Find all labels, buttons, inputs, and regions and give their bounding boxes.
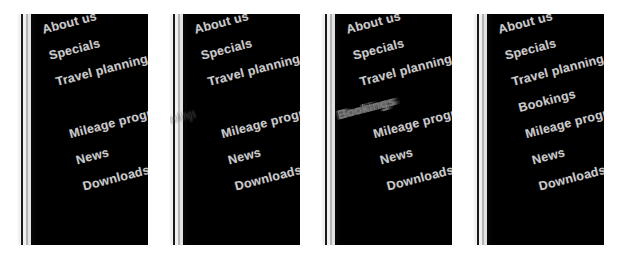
navigation-menu: About usSpecialsTravel planningBookingsM… <box>35 14 148 245</box>
menu-frame-1: About usSpecialsTravel planningBookingsM… <box>18 14 148 245</box>
panel-edge-stripes <box>322 14 339 245</box>
navigation-menu-list: About usSpecialsTravel planningBookingsM… <box>41 14 148 207</box>
panel-edge-stripes <box>18 14 35 245</box>
panel-edge-stripes <box>474 14 491 245</box>
animation-sequence: About usSpecialsTravel planningBookingsM… <box>0 0 618 260</box>
menu-frame-2: About usSpecialsTravel planningBookingsM… <box>170 14 300 245</box>
menu-frame-4: About usSpecialsTravel planningBookingsM… <box>474 14 604 245</box>
menu-item-mileage-programs[interactable]: Mileage programs <box>220 101 300 141</box>
navigation-menu-list: About usSpecialsTravel planningBookingsM… <box>193 14 300 207</box>
panel-edge-stripes <box>170 14 187 245</box>
navigation-menu-list: About usSpecialsTravel planningBookingsM… <box>345 14 452 207</box>
menu-item-mileage-programs[interactable]: Mileage programs <box>68 101 148 141</box>
navigation-menu: About usSpecialsTravel planningBookingsM… <box>491 14 604 245</box>
navigation-menu: About usSpecialsTravel planningBookingsM… <box>187 14 300 245</box>
navigation-menu-list: About usSpecialsTravel planningBookingsM… <box>497 14 604 207</box>
navigation-menu: About usSpecialsTravel planningBookingsM… <box>339 14 452 245</box>
menu-frame-3: About usSpecialsTravel planningBookingsM… <box>322 14 452 245</box>
